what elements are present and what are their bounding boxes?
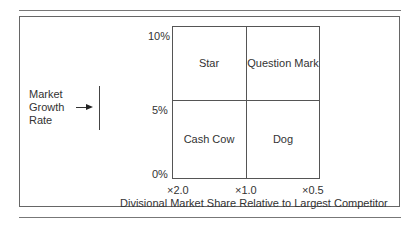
y-tick-0: 0% <box>152 168 168 180</box>
y-axis-label-line-1: Market <box>29 88 64 101</box>
quadrant-cash-cow: Cash Cow <box>172 133 246 145</box>
axis-indicator-line <box>99 86 100 130</box>
y-axis-label-line-2: Growth <box>29 101 64 114</box>
y-axis-label: Market Growth Rate <box>29 88 64 127</box>
x-tick-0-5: ×0.5 <box>302 184 324 196</box>
grid-mid-vertical <box>246 26 247 179</box>
y-axis-label-line-3: Rate <box>29 114 64 127</box>
x-axis-label: Divisional Market Share Relative to Larg… <box>120 197 388 210</box>
arrow-right-icon <box>86 104 93 110</box>
x-tick-2: ×2.0 <box>167 184 189 196</box>
quadrant-question-mark: Question Mark <box>246 57 320 69</box>
top-rule <box>19 10 401 11</box>
quadrant-dog: Dog <box>246 133 320 145</box>
grid-mid-horizontal <box>172 100 320 101</box>
y-tick-5: 5% <box>152 104 168 116</box>
bottom-rule <box>19 217 401 218</box>
quadrant-star: Star <box>172 57 246 69</box>
y-tick-10: 10% <box>148 30 170 42</box>
x-tick-1: ×1.0 <box>235 184 257 196</box>
